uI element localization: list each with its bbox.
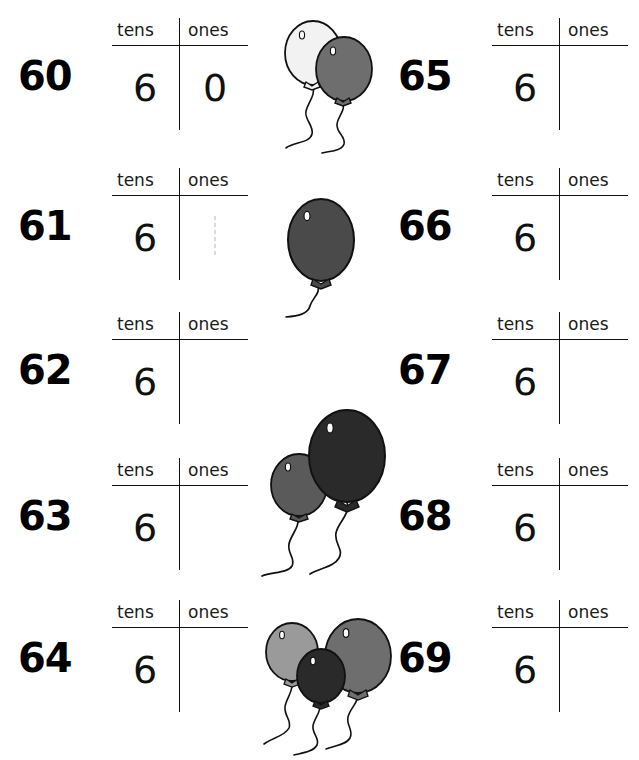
worksheet-row: 67 tens ones 6	[380, 294, 639, 444]
ones-answer-cell[interactable]: 0	[184, 56, 246, 120]
tens-value-cell[interactable]: 6	[114, 638, 176, 702]
chart-horizontal-rule	[112, 195, 248, 196]
place-value-chart: tens ones 6	[490, 312, 630, 427]
ones-answer-cell[interactable]	[184, 638, 246, 702]
row-number: 61	[18, 206, 72, 246]
tens-value-cell[interactable]: 6	[494, 206, 556, 270]
row-number: 60	[18, 56, 72, 96]
chart-vertical-rule	[559, 18, 560, 130]
chart-vertical-rule	[559, 600, 560, 712]
chart-headers: tens ones	[490, 600, 630, 626]
tens-column-header: tens	[117, 312, 154, 336]
chart-headers: tens ones	[490, 168, 630, 194]
tens-column-header: tens	[497, 312, 534, 336]
tens-column-header: tens	[497, 458, 534, 482]
place-value-chart: tens ones 6	[490, 18, 630, 133]
tens-value-cell[interactable]: 6	[494, 638, 556, 702]
chart-vertical-rule	[179, 312, 180, 424]
chart-horizontal-rule	[492, 45, 628, 46]
worksheet-row: 60 tens ones 6 0	[0, 0, 320, 150]
ones-column-header: ones	[188, 168, 229, 192]
ones-answer-cell[interactable]	[564, 496, 626, 560]
tens-column-header: tens	[497, 600, 534, 624]
chart-headers: tens ones	[110, 168, 250, 194]
place-value-chart: tens ones 6	[110, 312, 250, 427]
worksheet-row: 69 tens ones 6	[380, 582, 639, 732]
worksheet-page: 60 tens ones 6 0 61 tens ones 6 62	[0, 0, 639, 760]
tens-value-cell[interactable]: 6	[114, 56, 176, 120]
ones-answer-cell[interactable]	[564, 350, 626, 414]
place-value-chart: tens ones 6	[110, 600, 250, 715]
chart-vertical-rule	[179, 18, 180, 130]
faded-pencil-mark	[214, 216, 216, 256]
ones-column-header: ones	[568, 168, 609, 192]
place-value-chart: tens ones 6	[110, 458, 250, 573]
chart-horizontal-rule	[492, 485, 628, 486]
place-value-chart: tens ones 6	[110, 168, 250, 283]
chart-headers: tens ones	[110, 458, 250, 484]
row-number: 64	[18, 638, 72, 678]
chart-headers: tens ones	[490, 312, 630, 338]
ones-column-header: ones	[568, 18, 609, 42]
tens-column-header: tens	[497, 18, 534, 42]
worksheet-row: 66 tens ones 6	[380, 150, 639, 300]
chart-horizontal-rule	[492, 195, 628, 196]
worksheet-row: 61 tens ones 6	[0, 150, 320, 300]
ones-column-header: ones	[568, 600, 609, 624]
row-number: 68	[398, 496, 452, 536]
ones-answer-cell[interactable]	[564, 56, 626, 120]
tens-column-header: tens	[117, 168, 154, 192]
tens-column-header: tens	[117, 458, 154, 482]
chart-horizontal-rule	[112, 627, 248, 628]
chart-vertical-rule	[179, 600, 180, 712]
ones-column-header: ones	[568, 312, 609, 336]
tens-column-header: tens	[117, 600, 154, 624]
ones-answer-cell[interactable]	[184, 350, 246, 414]
ones-column-header: ones	[188, 312, 229, 336]
tens-value-cell[interactable]: 6	[114, 206, 176, 270]
ones-column-header: ones	[568, 458, 609, 482]
worksheet-row: 64 tens ones 6	[0, 582, 320, 732]
place-value-chart: tens ones 6	[490, 168, 630, 283]
row-number: 69	[398, 638, 452, 678]
chart-vertical-rule	[559, 168, 560, 280]
ones-column-header: ones	[188, 18, 229, 42]
chart-headers: tens ones	[490, 458, 630, 484]
chart-horizontal-rule	[112, 45, 248, 46]
ones-column-header: ones	[188, 458, 229, 482]
chart-horizontal-rule	[492, 627, 628, 628]
place-value-chart: tens ones 6	[490, 600, 630, 715]
ones-answer-cell[interactable]	[564, 206, 626, 270]
tens-column-header: tens	[497, 168, 534, 192]
ones-answer-cell[interactable]	[564, 638, 626, 702]
row-number: 65	[398, 56, 452, 96]
worksheet-row: 62 tens ones 6	[0, 294, 320, 444]
row-number: 67	[398, 350, 452, 390]
row-number: 63	[18, 496, 72, 536]
tens-value-cell[interactable]: 6	[494, 350, 556, 414]
chart-horizontal-rule	[112, 485, 248, 486]
chart-headers: tens ones	[490, 18, 630, 44]
place-value-chart: tens ones 6 0	[110, 18, 250, 133]
chart-horizontal-rule	[112, 339, 248, 340]
chart-vertical-rule	[179, 168, 180, 280]
tens-value-cell[interactable]: 6	[494, 496, 556, 560]
tens-value-cell[interactable]: 6	[494, 56, 556, 120]
chart-headers: tens ones	[110, 18, 250, 44]
chart-vertical-rule	[179, 458, 180, 570]
chart-vertical-rule	[559, 458, 560, 570]
worksheet-row: 65 tens ones 6	[380, 0, 639, 150]
tens-value-cell[interactable]: 6	[114, 496, 176, 560]
chart-horizontal-rule	[492, 339, 628, 340]
ones-answer-cell[interactable]	[184, 496, 246, 560]
row-number: 62	[18, 350, 72, 390]
chart-vertical-rule	[559, 312, 560, 424]
row-number: 66	[398, 206, 452, 246]
chart-headers: tens ones	[110, 600, 250, 626]
tens-value-cell[interactable]: 6	[114, 350, 176, 414]
worksheet-row: 68 tens ones 6	[380, 440, 639, 590]
tens-column-header: tens	[117, 18, 154, 42]
worksheet-row: 63 tens ones 6	[0, 440, 320, 590]
chart-headers: tens ones	[110, 312, 250, 338]
place-value-chart: tens ones 6	[490, 458, 630, 573]
